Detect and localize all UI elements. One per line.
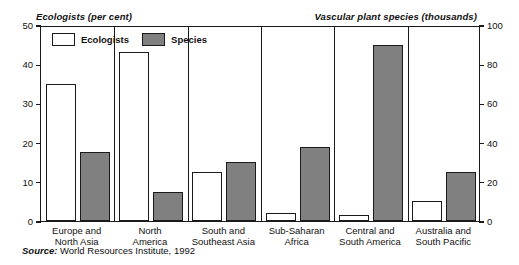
bar-species-5	[446, 172, 476, 221]
axis-tick-mark	[36, 182, 41, 183]
category-label-1: NorthAmerica	[113, 225, 186, 247]
source-note: Source: World Resources Institute, 1992	[22, 245, 195, 256]
legend-swatch-white	[52, 33, 75, 46]
axis-tick-label: 10	[22, 178, 33, 188]
chart-legend: EcologistsSpecies	[52, 33, 207, 46]
bar-species-3	[300, 147, 330, 221]
bar-species-0	[80, 152, 110, 221]
category-label-line: Europe and	[40, 225, 113, 236]
category-label-line: South Pacific	[407, 236, 480, 247]
bar-ecologists-3	[266, 213, 296, 221]
category-label-line: North	[113, 225, 186, 236]
axis-tick-mark	[479, 221, 484, 222]
category-label-line: Africa	[260, 236, 333, 247]
category-label-line: South America	[333, 236, 406, 247]
legend-item-species: Species	[142, 33, 207, 46]
category-label-line: Southeast Asia	[187, 236, 260, 247]
source-prefix: Source:	[22, 245, 57, 256]
axis-tick-label: 0	[487, 217, 492, 227]
axis-tick-label: 20	[22, 139, 33, 149]
axis-tick-label: 100	[487, 21, 503, 31]
category-label-line: Australia and	[407, 225, 480, 236]
legend-item-ecologists: Ecologists	[52, 33, 129, 46]
axis-tick-label: 50	[22, 21, 33, 31]
bar-ecologists-1	[119, 52, 149, 221]
axis-tick-mark	[36, 25, 41, 26]
bar-ecologists-0	[46, 84, 76, 221]
legend-label: Ecologists	[81, 34, 129, 45]
chart-figure: Ecologists (per cent) Vascular plant spe…	[0, 0, 519, 265]
axis-tick-mark	[36, 143, 41, 144]
axis-tick-label: 0	[28, 217, 33, 227]
category-label-line: Central and	[333, 225, 406, 236]
category-label-line: Sub-Saharan	[260, 225, 333, 236]
bar-species-2	[226, 162, 256, 221]
axis-tick-mark	[479, 65, 484, 66]
axis-tick-mark	[479, 104, 484, 105]
bar-ecologists-5	[412, 201, 442, 221]
bar-ecologists-4	[339, 215, 369, 221]
legend-label: Species	[171, 34, 207, 45]
legend-swatch-gray	[142, 33, 165, 46]
group-separator-line	[408, 26, 409, 221]
left-axis-title: Ecologists (per cent)	[36, 11, 132, 22]
axis-tick-mark	[479, 25, 484, 26]
axis-tick-mark	[36, 104, 41, 105]
axis-tick-mark	[36, 65, 41, 66]
group-separator-line	[114, 26, 115, 221]
category-label-4: Central andSouth America	[333, 225, 406, 247]
axis-tick-label: 80	[487, 60, 498, 70]
group-separator-line	[188, 26, 189, 221]
category-label-3: Sub-SaharanAfrica	[260, 225, 333, 247]
axis-tick-mark	[479, 182, 484, 183]
category-label-2: South andSoutheast Asia	[187, 225, 260, 247]
category-label-5: Australia andSouth Pacific	[407, 225, 480, 247]
bar-ecologists-2	[192, 172, 222, 221]
group-separator-line	[334, 26, 335, 221]
axis-tick-mark	[479, 143, 484, 144]
category-label-line: South and	[187, 225, 260, 236]
right-axis-title: Vascular plant species (thousands)	[315, 11, 477, 22]
plot-area: 01020304050 020406080100	[40, 26, 480, 222]
axis-tick-label: 30	[22, 100, 33, 110]
group-separator-line	[261, 26, 262, 221]
axis-tick-label: 60	[487, 100, 498, 110]
source-text: World Resources Institute, 1992	[60, 245, 195, 256]
axis-tick-mark	[36, 221, 41, 222]
category-label-0: Europe andNorth Asia	[40, 225, 113, 247]
axis-tick-label: 40	[22, 60, 33, 70]
axis-tick-label: 40	[487, 139, 498, 149]
bar-species-4	[373, 45, 403, 221]
axis-tick-label: 20	[487, 178, 498, 188]
bar-species-1	[153, 192, 183, 221]
